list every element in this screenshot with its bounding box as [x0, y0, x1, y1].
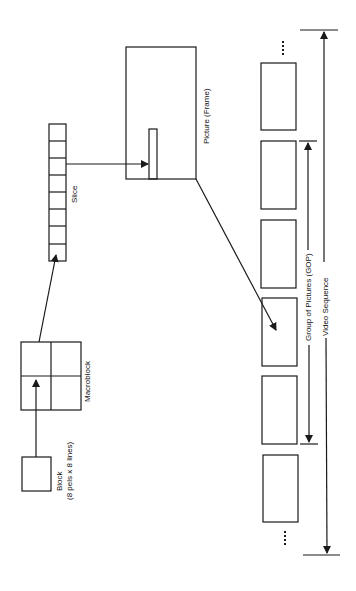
block-box	[22, 457, 51, 491]
ellipsis-bottom	[284, 531, 286, 545]
video-sequence-label: Video Sequence	[321, 277, 330, 336]
slice-box	[49, 124, 66, 261]
picture-label: Picture (Frame)	[202, 88, 211, 144]
gop-label: Group of Pictures (GOP)	[304, 253, 313, 341]
macroblock-label: Macroblock	[83, 360, 92, 402]
ellipsis-top	[282, 41, 284, 55]
picture-frame-box	[126, 47, 196, 179]
sequence-frame-4	[262, 298, 297, 366]
mpeg-hierarchy-diagram: Block (8 pels x 8 lines) Macroblock Slic…	[0, 0, 356, 591]
sequence-frame-5	[262, 376, 297, 444]
sequence-frame-6	[263, 455, 298, 522]
sequence-frame-3	[261, 220, 296, 288]
sequence-frames	[261, 63, 298, 522]
edge-picture-to-frame	[196, 179, 276, 330]
sequence-frame-2	[261, 141, 296, 209]
block-label: Block	[55, 470, 64, 491]
macroblock-box	[21, 342, 81, 410]
sequence-frame-1	[261, 63, 296, 130]
edge-macroblock-to-slice	[39, 255, 56, 342]
slice-label: Slice	[70, 185, 79, 203]
block-sublabel: (8 pels x 8 lines)	[65, 441, 74, 500]
